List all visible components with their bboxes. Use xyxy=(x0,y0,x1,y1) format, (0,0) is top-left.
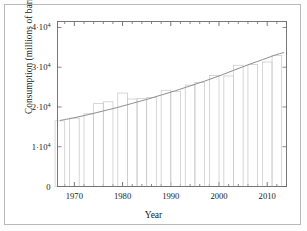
bar xyxy=(248,64,258,186)
bar xyxy=(209,76,219,187)
x-tick-label: 1980 xyxy=(114,191,131,201)
bar xyxy=(171,91,181,186)
bar xyxy=(70,118,80,186)
bar xyxy=(103,102,113,187)
bar xyxy=(84,114,94,187)
x-tick-label: 1970 xyxy=(66,191,83,201)
bar xyxy=(137,99,147,187)
x-tick-label: 2000 xyxy=(210,191,227,201)
x-tick-label: 2010 xyxy=(259,191,276,201)
axis-frame xyxy=(58,22,287,187)
bar xyxy=(195,82,205,186)
y-axis-label-container: Consumption (millions of barrels) xyxy=(18,0,36,124)
bar xyxy=(262,62,272,186)
bar xyxy=(161,90,171,186)
y-axis-label: Consumption (millions of barrels) xyxy=(24,0,34,114)
bar xyxy=(94,103,104,186)
x-axis-tick-labels: 19701980199020002010 xyxy=(66,191,276,201)
bar xyxy=(224,76,234,187)
bar xyxy=(127,99,137,186)
chart-figure: 01·1042·1043·1044·104 197019801990200020… xyxy=(0,0,307,231)
bar xyxy=(147,97,157,186)
x-axis-label: Year xyxy=(0,210,307,220)
bar xyxy=(233,65,243,186)
x-tick-label: 1990 xyxy=(162,191,179,201)
y-tick-label: 0 xyxy=(46,182,50,192)
chart-plot-area: 01·1042·1043·1044·104 197019801990200020… xyxy=(0,0,307,231)
axis-tick-marks xyxy=(58,22,287,187)
bar xyxy=(185,85,195,186)
bar-series xyxy=(55,55,282,186)
bar xyxy=(55,121,65,187)
y-tick-label: 1·104 xyxy=(32,142,51,152)
bar xyxy=(272,55,282,186)
